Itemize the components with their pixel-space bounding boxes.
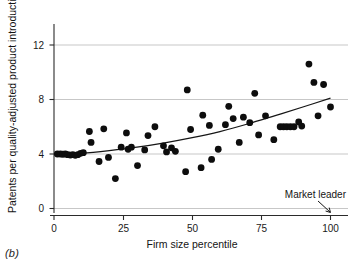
data-point xyxy=(141,147,148,154)
panel-label: (b) xyxy=(5,247,19,259)
data-points-layer xyxy=(54,61,334,182)
y-tick-label-0: 0 xyxy=(38,203,44,214)
data-point xyxy=(327,104,334,111)
x-tick-label-75: 75 xyxy=(256,223,268,234)
data-point xyxy=(123,129,130,136)
data-point xyxy=(236,139,243,146)
data-point xyxy=(96,158,103,165)
market-leader-label: Market leader xyxy=(285,189,347,200)
data-point xyxy=(225,103,232,110)
y-tick-label-4: 4 xyxy=(38,149,44,160)
data-point xyxy=(208,156,215,163)
data-point xyxy=(184,87,191,94)
data-point xyxy=(315,112,322,119)
data-point xyxy=(246,119,253,126)
figure-panel: 12 8 4 0 Patents per quality-adjusted pr… xyxy=(0,0,363,273)
data-point xyxy=(215,146,222,153)
data-point xyxy=(105,154,112,161)
x-tick-label-25: 25 xyxy=(118,223,130,234)
data-point xyxy=(262,112,269,119)
data-point xyxy=(172,148,179,155)
scatter-chart: 12 8 4 0 Patents per quality-adjusted pr… xyxy=(0,0,363,273)
data-point xyxy=(230,115,237,122)
data-point xyxy=(152,123,159,130)
x-axis: 0 25 50 75 100 Firm size percentile xyxy=(50,216,348,251)
y-tick-label-8: 8 xyxy=(38,94,44,105)
data-point xyxy=(112,175,119,182)
data-point xyxy=(240,114,247,121)
x-axis-title: Firm size percentile xyxy=(146,238,237,250)
data-point xyxy=(198,164,205,171)
data-point xyxy=(182,168,189,175)
market-leader-arrow-shaft xyxy=(318,201,330,212)
data-point xyxy=(88,139,95,146)
data-point xyxy=(251,90,258,97)
data-point xyxy=(255,132,262,139)
data-point xyxy=(128,144,135,151)
x-tick-label-100: 100 xyxy=(322,223,339,234)
x-tick-label-0: 0 xyxy=(51,223,57,234)
y-axis: 12 8 4 0 Patents per quality-adjusted pr… xyxy=(6,0,54,214)
data-point xyxy=(160,142,167,149)
data-point xyxy=(118,144,125,151)
data-point xyxy=(86,128,93,135)
market-leader-annotation: Market leader xyxy=(285,189,347,213)
data-point xyxy=(134,162,141,169)
y-tick-label-12: 12 xyxy=(33,40,45,51)
data-point xyxy=(80,149,87,156)
data-point xyxy=(298,123,305,130)
data-point xyxy=(306,61,313,68)
data-point xyxy=(100,125,107,132)
x-tick-label-50: 50 xyxy=(187,223,199,234)
data-point xyxy=(222,121,229,128)
y-axis-title: Patents per quality-adjusted product int… xyxy=(6,0,18,213)
data-point xyxy=(270,136,277,143)
data-point xyxy=(311,79,318,86)
data-point xyxy=(320,81,327,88)
data-point xyxy=(187,126,194,133)
data-point xyxy=(206,122,213,129)
data-point xyxy=(145,132,152,139)
data-point xyxy=(199,112,206,119)
